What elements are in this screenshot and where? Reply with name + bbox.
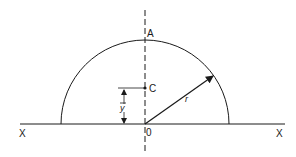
label-r: r <box>185 94 189 104</box>
label-c: C <box>149 83 156 94</box>
label-ybar: y <box>119 103 125 113</box>
label-x-right: X <box>276 128 283 139</box>
label-a: A <box>147 28 154 39</box>
label-x-left: X <box>19 128 26 139</box>
semicircle-centroid-diagram: A C 0 X X r y <box>0 0 296 157</box>
label-origin: 0 <box>146 127 152 138</box>
